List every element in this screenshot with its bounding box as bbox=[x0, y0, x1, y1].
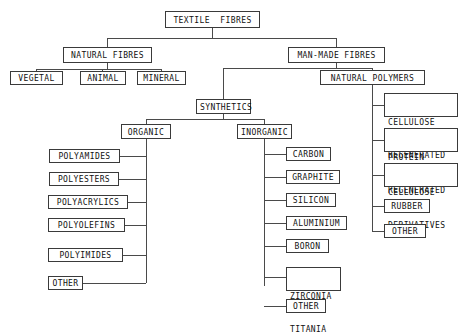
node-carbon[interactable]: CARBON bbox=[286, 147, 331, 161]
connector-natpoly-spine bbox=[372, 84, 373, 232]
node-natural-fibres[interactable]: NATURAL FIBRES bbox=[63, 47, 152, 63]
node-polyolefins[interactable]: POLYOLEFINS bbox=[48, 218, 125, 232]
connector-organic-item-0 bbox=[120, 156, 146, 157]
connector-organic-item-4 bbox=[123, 255, 146, 256]
node-inorganic-other[interactable]: OTHER bbox=[286, 299, 326, 313]
node-cellulose-regenerated[interactable]: CELLULOSE REGENERATED bbox=[384, 93, 458, 117]
connector-organic-spine bbox=[146, 138, 147, 283]
connector-natpoly-item-3 bbox=[372, 206, 384, 207]
connector-natpoly-item-2 bbox=[372, 175, 384, 176]
connector-to-synthetics bbox=[223, 68, 224, 99]
node-animal[interactable]: ANIMAL bbox=[80, 71, 126, 85]
connector-inorganic-spine bbox=[264, 138, 265, 286]
connector-natpoly-item-0 bbox=[372, 105, 384, 106]
connector-level1-bus bbox=[107, 38, 337, 39]
node-protein-regenerated-line1: PROTEIN bbox=[388, 152, 454, 163]
node-polyacrylics[interactable]: POLYACRYLICS bbox=[48, 195, 128, 209]
node-rubber[interactable]: RUBBER bbox=[384, 199, 430, 213]
node-inorganic[interactable]: INORGANIC bbox=[237, 124, 292, 139]
connector-organic-item-5 bbox=[83, 283, 146, 284]
connector-organic-item-1 bbox=[119, 179, 146, 180]
node-polyimides[interactable]: POLYIMIDES bbox=[48, 248, 123, 262]
connector-natural-bus bbox=[36, 69, 161, 70]
node-textile-fibres[interactable]: TEXTILE FIBRES bbox=[165, 11, 260, 28]
node-zirconia-titania-line2: TITANIA bbox=[290, 324, 337, 335]
connector-organic-item-2 bbox=[128, 202, 146, 203]
connector-natpoly-item-1 bbox=[372, 140, 384, 141]
node-silicon[interactable]: SILICON bbox=[286, 193, 336, 207]
node-man-made-fibres[interactable]: MAN-MADE FIBRES bbox=[288, 47, 385, 63]
node-natural-polymers-other[interactable]: OTHER bbox=[384, 224, 426, 238]
node-polyamides[interactable]: POLYAMIDES bbox=[49, 149, 120, 163]
connector-inorganic-item-1 bbox=[264, 177, 286, 178]
connector-inorganic-item-3 bbox=[264, 223, 286, 224]
node-protein-regenerated[interactable]: PROTEIN REGENERATED bbox=[384, 128, 458, 152]
connector-inorganic-item-4 bbox=[264, 246, 286, 247]
connector-natural-stem bbox=[107, 62, 108, 69]
node-organic-other[interactable]: OTHER bbox=[48, 276, 83, 290]
connector-inorganic-item-2 bbox=[264, 200, 286, 201]
node-cellulose-derivatives-line1: CELLULOSE bbox=[388, 187, 454, 198]
connector-natpoly-item-4 bbox=[372, 231, 384, 232]
node-zirconia-titania[interactable]: ZIRCONIA TITANIA bbox=[286, 267, 341, 291]
node-organic[interactable]: ORGANIC bbox=[121, 124, 171, 139]
node-natural-polymers[interactable]: NATURAL POLYMERS bbox=[320, 70, 425, 85]
node-cellulose-regenerated-line1: CELLULOSE bbox=[388, 117, 454, 128]
connector-inorganic-item-5 bbox=[264, 277, 286, 278]
connector-organic-item-3 bbox=[125, 225, 146, 226]
node-polyesters[interactable]: POLYESTERS bbox=[49, 172, 119, 186]
connector-root-stem bbox=[212, 27, 213, 38]
node-vegetal[interactable]: VEGETAL bbox=[10, 71, 63, 85]
node-synthetics[interactable]: SYNTHETICS bbox=[196, 99, 251, 114]
connector-inorganic-item-6 bbox=[264, 306, 286, 307]
connector-inorganic-item-0 bbox=[264, 154, 286, 155]
node-aluminium[interactable]: ALUMINIUM bbox=[286, 216, 347, 230]
node-cellulose-derivatives[interactable]: CELLULOSE DERIVATIVES bbox=[384, 163, 458, 187]
node-boron[interactable]: BORON bbox=[286, 239, 329, 253]
connector-synthetics-bus bbox=[146, 119, 264, 120]
connector-manmade-bus bbox=[223, 68, 372, 69]
node-mineral[interactable]: MINERAL bbox=[137, 71, 186, 85]
node-graphite[interactable]: GRAPHITE bbox=[286, 170, 340, 184]
